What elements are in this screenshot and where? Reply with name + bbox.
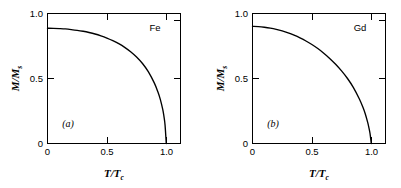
- panel-a-xticklabel-2: 1.0: [160, 146, 173, 157]
- panel-a-letter: (a): [62, 118, 74, 130]
- panel-b-yticklabel-1: 0.5: [235, 73, 248, 84]
- panel-a-xaxis-title: T/Tc: [104, 167, 125, 182]
- panel-a-xticklabel-1: 0.5: [100, 146, 113, 157]
- panel-b: 0 0.5 1.0 0 0.5 1.0 T/Tc M/Ms Gd (b): [214, 8, 386, 182]
- panel-a-yaxis-title: M/Ms: [9, 66, 24, 93]
- panel-a-yticklabel-0: 0: [38, 138, 43, 149]
- panel-a: 0 0.5 1.0 0 0.5 1.0 T/Tc M/Ms Fe (a): [9, 8, 181, 182]
- figure-canvas: 0 0.5 1.0 0 0.5 1.0 T/Tc M/Ms Fe (a): [0, 0, 401, 188]
- panel-a-yticklabel-2: 1.0: [30, 8, 43, 19]
- panel-b-xaxis-title: T/Tc: [309, 167, 330, 182]
- panel-b-yticklabel-2: 1.0: [235, 8, 248, 19]
- panel-b-yticklabel-0: 0: [243, 138, 248, 149]
- magnetization-figure: 0 0.5 1.0 0 0.5 1.0 T/Tc M/Ms Fe (a): [0, 0, 401, 188]
- panel-b-specimen-label: Gd: [354, 22, 367, 33]
- panel-b-xticklabel-1: 0.5: [305, 146, 318, 157]
- panel-a-specimen-label: Fe: [149, 22, 160, 33]
- panel-a-yticklabel-1: 0.5: [30, 73, 43, 84]
- panel-a-xticklabel-0: 0: [45, 146, 50, 157]
- panel-b-xticklabel-0: 0: [250, 146, 255, 157]
- panel-b-yaxis-title: M/Ms: [214, 66, 229, 93]
- panel-b-letter: (b): [267, 118, 279, 130]
- panel-b-xticklabel-2: 1.0: [365, 146, 378, 157]
